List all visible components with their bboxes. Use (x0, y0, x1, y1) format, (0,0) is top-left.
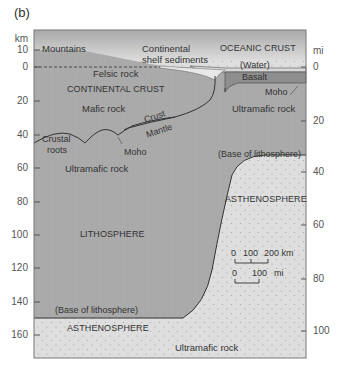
label-asthenosphere-bottom: ASTHENOSPHERE (67, 324, 149, 333)
scale-mi-unit: mi (274, 269, 284, 278)
label-oceanic-crust: OCEANIC CRUST (220, 44, 296, 53)
label-crustal: Crustal (42, 135, 71, 144)
geologic-cross-section-figure: (b) km mi 10 0 20 40 60 80 100 120 140 1… (0, 0, 340, 375)
right-tick-label: 0 (313, 62, 319, 72)
right-tick-label: 80 (313, 274, 324, 284)
label-ultramafic-bottom: Ultramafic rock (175, 343, 238, 353)
label-mafic-rock: Mafic rock (82, 104, 125, 114)
scale-mi-100: 100 (252, 269, 267, 278)
scale-km-0: 0 (231, 249, 236, 258)
scale-km-200: 200 km (264, 249, 294, 258)
label-moho-continental: Moho (124, 148, 147, 157)
label-roots: roots (47, 146, 67, 155)
left-tick-label: 160 (0, 330, 28, 340)
label-felsic-rock: Felsic rock (93, 69, 138, 79)
label-asthenosphere-ocean: ASTHENOSPHERE (225, 195, 307, 204)
left-tick-label: 10 (0, 45, 28, 55)
left-tick-label: 80 (0, 197, 28, 207)
label-base-lithosphere-continent: (Base of lithosphere) (55, 306, 138, 315)
left-tick-label: 60 (0, 163, 28, 173)
label-continental: Continental (142, 44, 190, 54)
label-moho-oceanic: Moho (265, 88, 288, 97)
label-shelf-sediments: shelf sediments (142, 55, 208, 65)
left-tick-label: 100 (0, 230, 28, 240)
label-lithosphere: LITHOSPHERE (80, 230, 145, 239)
left-axis-unit: km (0, 34, 28, 44)
right-tick-label: 60 (313, 220, 324, 230)
label-basalt: Basalt (242, 73, 267, 82)
right-tick-label: 40 (313, 167, 324, 177)
left-tick-label: 0 (0, 62, 28, 72)
label-ultramafic-oceanic: Ultramafic rock (232, 104, 295, 114)
right-tick-label: 100 (313, 326, 330, 336)
label-ultramafic-continental: Ultramafic rock (65, 164, 128, 174)
left-tick-label: 40 (0, 130, 28, 140)
label-mountains: Mountains (42, 44, 86, 54)
left-tick-label: 140 (0, 297, 28, 307)
label-base-lithosphere-ocean: (Base of lithosphere) (218, 150, 301, 159)
scale-mi-0: 0 (232, 269, 237, 278)
left-tick-label: 120 (0, 263, 28, 273)
label-continental-crust: CONTINENTAL CRUST (67, 85, 165, 94)
right-tick-label: 20 (313, 116, 324, 126)
scale-km-100: 100 (243, 249, 258, 258)
right-axis-unit: mi (313, 46, 324, 56)
panel-label: (b) (14, 5, 30, 20)
label-water: (Water) (240, 61, 270, 70)
left-tick-label: 20 (0, 96, 28, 106)
